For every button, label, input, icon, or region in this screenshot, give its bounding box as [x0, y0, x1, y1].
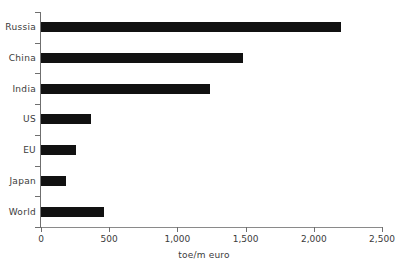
bar	[41, 207, 104, 217]
bar	[41, 114, 91, 124]
x-axis-tick-label: 2,000	[301, 234, 327, 244]
bar	[41, 176, 66, 186]
bar-band	[0, 104, 408, 135]
bar-band	[0, 166, 408, 197]
x-axis-line	[41, 227, 383, 228]
bar-band	[0, 135, 408, 166]
bar-band	[0, 73, 408, 104]
x-axis-tick	[41, 227, 42, 232]
y-axis-tick	[35, 227, 40, 228]
x-axis-tick	[177, 227, 178, 232]
x-axis-tick-label: 0	[38, 234, 44, 244]
x-axis-tick	[246, 227, 247, 232]
bar-band	[0, 12, 408, 43]
x-axis-tick-label: 1,500	[233, 234, 259, 244]
bar-band	[0, 43, 408, 74]
bar	[41, 53, 243, 63]
x-axis-tick	[382, 227, 383, 232]
bar	[41, 84, 210, 94]
bar	[41, 22, 341, 32]
x-axis-title: toe/m euro	[0, 250, 408, 260]
x-axis-tick	[109, 227, 110, 232]
x-axis-tick-label: 1,000	[165, 234, 191, 244]
x-axis-tick-label: 2,500	[369, 234, 395, 244]
bar	[41, 145, 76, 155]
x-axis-tick-label: 500	[101, 234, 118, 244]
bar-band	[0, 196, 408, 227]
x-axis-tick	[314, 227, 315, 232]
bar-chart: RussiaChinaIndiaUSEUJapanWorld 05001,000…	[0, 0, 408, 270]
